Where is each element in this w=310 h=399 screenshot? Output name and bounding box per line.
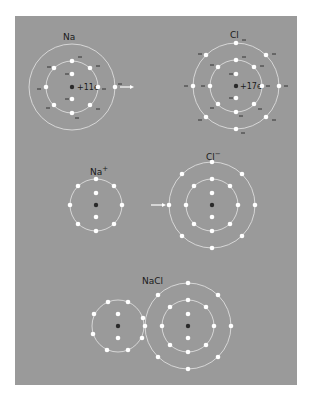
na-ion: Na+: [68, 165, 125, 233]
ionic-bond-diagram: Na +11e Cl +17e: [0, 0, 310, 399]
ion-arrow: [151, 203, 166, 207]
na-atom: Na +11e: [29, 32, 134, 130]
cl-label: Cl: [230, 30, 239, 40]
cl-ion: Cl−: [167, 150, 258, 250]
nacl-label: NaCl: [142, 276, 163, 286]
nucleus: [234, 84, 238, 88]
electron-transfer-arrow: [120, 85, 134, 89]
cl-atom: Cl +17e: [184, 30, 288, 133]
valence-electron: [113, 85, 118, 90]
nucleus-charge: +11e: [77, 83, 99, 92]
nacl-compound: NaCl: [91, 276, 234, 371]
na-ion-label: Na+: [90, 165, 108, 177]
nucleus: [70, 85, 74, 89]
na-label: Na: [63, 32, 75, 42]
nucleus-charge: +17e: [240, 82, 262, 91]
